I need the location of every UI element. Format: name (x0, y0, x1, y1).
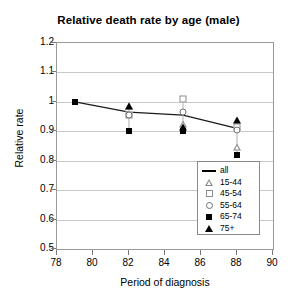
legend-item-45-54: 45-54 (198, 188, 259, 200)
data-point-75plus (233, 116, 241, 123)
legend-marker-swatch (205, 179, 213, 186)
x-axis-tick-mark (236, 250, 237, 255)
data-point-55-64 (234, 126, 241, 133)
filled-square-icon (198, 211, 220, 222)
data-point-15-44 (233, 144, 241, 151)
data-point-65-74 (72, 99, 78, 105)
data-point-65-74 (126, 128, 132, 134)
y-axis-title: Relative rate (13, 93, 25, 183)
open-triangle-icon (198, 177, 220, 188)
y-axis-tick-label: 0.8 (0, 155, 54, 165)
legend-marker-swatch (206, 202, 213, 209)
x-axis-title: Period of diagnosis (56, 276, 274, 288)
y-axis-tick-label: 0.9 (0, 125, 54, 135)
y-axis-tick-label: 1.1 (0, 66, 54, 76)
legend-item-all: all (198, 165, 259, 177)
x-axis-tick-label: 84 (149, 258, 179, 268)
legend-item-55-64: 55-64 (198, 200, 259, 212)
open-square-icon (198, 188, 220, 199)
legend-item-label: 75+ (220, 224, 234, 233)
filled-triangle-icon (198, 223, 220, 234)
x-axis-tick-mark (200, 250, 201, 255)
data-point-45-54 (180, 95, 187, 102)
legend-marker-swatch (206, 190, 213, 197)
legend-line-swatch (202, 170, 216, 172)
legend-item-65-74: 65-74 (198, 211, 259, 223)
legend-marker-swatch (206, 214, 212, 220)
line-key-icon (198, 165, 220, 176)
x-axis-tick-mark (164, 250, 165, 255)
y-axis-tick-label: 0.5 (0, 243, 54, 253)
y-axis-tick-label: 0.6 (0, 214, 54, 224)
y-axis-tick-label: 1 (0, 96, 54, 106)
legend-item-label: 55-64 (220, 201, 242, 210)
data-point-55-64 (126, 112, 133, 119)
legend-item-label: all (220, 166, 229, 175)
x-axis-tick-mark (56, 250, 57, 255)
x-axis-tick-label: 82 (113, 258, 143, 268)
chart-figure: Relative death rate by age (male) 1.21.1… (0, 0, 297, 297)
legend-item-75plus: 75+ (198, 223, 259, 235)
legend-item-label: 15-44 (220, 178, 242, 187)
x-axis-tick-label: 86 (185, 258, 215, 268)
x-axis-tick-label: 90 (257, 258, 287, 268)
data-point-55-64 (180, 109, 187, 116)
chart-legend: all15-4445-5455-6465-7475+ (197, 161, 260, 235)
data-point-65-74 (234, 152, 240, 158)
x-axis-tick-label: 80 (77, 258, 107, 268)
x-axis-tick-label: 78 (41, 258, 71, 268)
chart-title: Relative death rate by age (male) (0, 14, 297, 26)
legend-item-15-44: 15-44 (198, 177, 259, 189)
open-circle-icon (198, 200, 220, 211)
legend-marker-swatch (205, 225, 213, 232)
x-axis-tick-label: 88 (221, 258, 251, 268)
legend-item-label: 65-74 (220, 212, 242, 221)
legend-item-label: 45-54 (220, 189, 242, 198)
data-point-75plus (179, 123, 187, 130)
y-axis-tick-label: 0.7 (0, 184, 54, 194)
x-axis-tick-mark (128, 250, 129, 255)
x-axis-tick-mark (92, 250, 93, 255)
x-axis-tick-mark (272, 250, 273, 255)
y-axis-tick-label: 1.2 (0, 37, 54, 47)
data-point-75plus (125, 103, 133, 110)
